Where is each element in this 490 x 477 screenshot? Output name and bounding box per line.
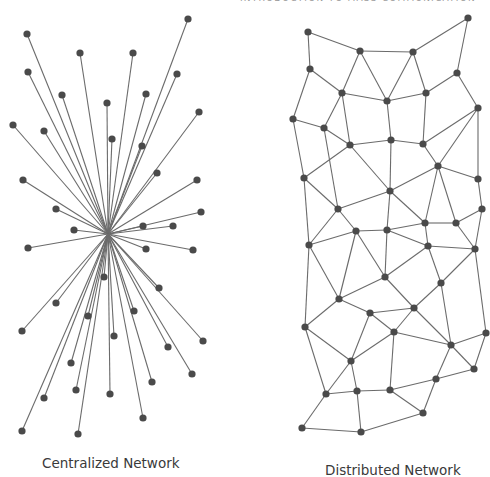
mesh-edge [305, 327, 326, 394]
network-node [320, 124, 327, 131]
network-node [40, 127, 47, 134]
mesh-edge [425, 166, 438, 223]
network-node [386, 386, 393, 393]
network-node [52, 205, 59, 212]
caption-centralized-network: Centralized Network [42, 455, 180, 471]
mesh-edge [350, 140, 391, 145]
network-node [108, 135, 115, 142]
network-node [478, 205, 485, 212]
network-node [335, 295, 342, 302]
network-node [383, 97, 390, 104]
mesh-edge [451, 345, 474, 369]
mesh-edge [436, 345, 451, 379]
network-node [18, 427, 25, 434]
mesh-edge [391, 140, 423, 144]
network-node [197, 208, 204, 215]
network-node [129, 49, 136, 56]
network-node [434, 162, 441, 169]
network-node [464, 14, 471, 21]
network-node [169, 222, 176, 229]
network-node [100, 273, 107, 280]
spoke-edge [108, 234, 192, 374]
mesh-edge [339, 277, 385, 299]
mesh-edge [426, 73, 457, 93]
network-node [9, 121, 16, 128]
mesh-edge [326, 361, 351, 394]
mesh-edge [387, 52, 413, 101]
network-node [139, 414, 146, 421]
mesh-edge [302, 428, 361, 432]
mesh-edge [475, 209, 482, 249]
network-node [148, 378, 155, 385]
spoke-edge [44, 234, 108, 398]
network-node [452, 219, 459, 226]
network-node [184, 15, 191, 22]
mesh-edge [387, 223, 425, 230]
spoke-edge [108, 180, 197, 234]
network-node [289, 115, 296, 122]
mesh-edge [394, 308, 414, 332]
mesh-edge [304, 178, 309, 245]
mesh-edge [390, 140, 391, 191]
mesh-edge [338, 209, 356, 231]
network-node [142, 245, 149, 252]
distributed-network [289, 14, 489, 435]
network-node [300, 174, 307, 181]
spoke-edge [62, 95, 108, 234]
spoke-edge [76, 234, 108, 390]
mesh-edge [293, 119, 324, 128]
mesh-edge [370, 308, 414, 313]
network-node [67, 359, 74, 366]
mesh-edge [370, 313, 394, 332]
mesh-edge [305, 299, 339, 327]
network-node [193, 176, 200, 183]
mesh-edge [339, 231, 356, 299]
mesh-edge [436, 369, 474, 379]
spoke-edge [28, 234, 108, 248]
network-node [353, 387, 360, 394]
network-node [471, 245, 478, 252]
network-node [23, 30, 30, 37]
mesh-edge [326, 391, 357, 394]
mesh-edge [390, 166, 438, 191]
spoke-edge [71, 234, 108, 363]
spoke-edge [108, 74, 177, 234]
mesh-edge [387, 101, 391, 140]
mesh-edge [309, 245, 339, 299]
mesh-edge [302, 394, 326, 428]
mesh-edge [385, 230, 387, 277]
network-node [419, 140, 426, 147]
mesh-edge [293, 69, 310, 119]
mesh-edge [387, 93, 426, 101]
network-node [334, 205, 341, 212]
network-node [110, 332, 117, 339]
network-node [103, 99, 110, 106]
mesh-edge [438, 166, 478, 179]
mesh-edge [324, 93, 342, 128]
mesh-edge [423, 144, 438, 166]
network-node [76, 49, 83, 56]
spoke-edge [27, 34, 108, 234]
mesh-edge [342, 93, 350, 145]
mesh-edge [356, 231, 385, 277]
network-diagram [0, 0, 490, 477]
network-node [366, 309, 373, 316]
network-node [338, 89, 345, 96]
mesh-edge [475, 249, 486, 333]
network-node [19, 176, 26, 183]
mesh-edge [478, 179, 482, 209]
network-node [106, 390, 113, 397]
network-node [424, 242, 431, 249]
mesh-edge [342, 93, 387, 101]
mesh-edge [423, 108, 478, 144]
mesh-edge [360, 51, 387, 101]
network-node [155, 284, 162, 291]
network-node [305, 241, 312, 248]
spoke-edge [78, 234, 108, 434]
network-node [199, 337, 206, 344]
network-node [188, 370, 195, 377]
network-node [72, 386, 79, 393]
network-node [52, 299, 59, 306]
mesh-edge [474, 333, 486, 369]
mesh-edge [361, 413, 423, 432]
